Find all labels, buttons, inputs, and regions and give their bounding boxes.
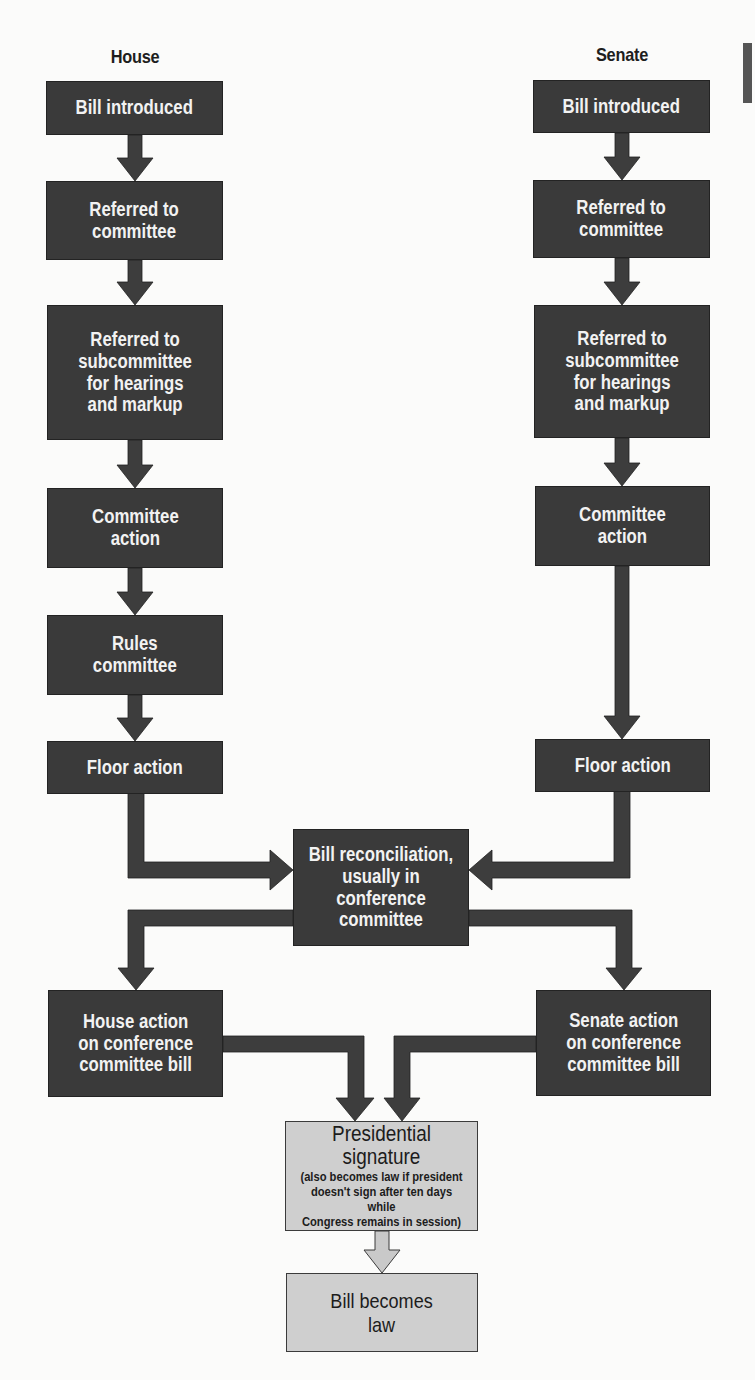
house-column-title: House [92, 46, 178, 68]
arrow-senate-2 [604, 258, 640, 305]
step-label: Referred to committee [577, 197, 666, 241]
house-step-floor-action: Floor action [47, 741, 223, 794]
house-step-committee-action: Committee action [47, 488, 223, 568]
presidential-note: (also becomes law if president doesn't s… [299, 1170, 463, 1230]
arrow-house-5 [117, 695, 153, 741]
senate-step-subcommittee: Referred to subcommittee for hearings an… [534, 305, 710, 438]
arrow-house-4 [117, 568, 153, 615]
arrow-reconciliation-to-senate-action [469, 910, 642, 990]
arrow-senate-to-reconciliation [469, 791, 630, 890]
arrow-senate-action-to-presidential [384, 1036, 536, 1121]
arrow-reconciliation-to-house-action [118, 910, 293, 990]
step-label: Bill introduced [563, 96, 680, 118]
step-senate-final-action: Senate action on conference committee bi… [536, 990, 711, 1096]
house-step-rules-committee: Rules committee [47, 615, 223, 695]
result-label: Bill becomes law [331, 1289, 433, 1335]
step-label: Rules committee [93, 633, 177, 677]
step-label: Referred to committee [90, 199, 179, 243]
step-label: Referred to subcommittee for hearings an… [565, 328, 679, 415]
arrow-house-to-reconciliation [128, 791, 293, 890]
step-label: House action on conference committee bil… [78, 1011, 193, 1076]
arrow-house-2 [117, 260, 153, 305]
step-label: Bill reconciliation, usually in conferen… [309, 844, 453, 931]
arrow-house-action-to-presidential [223, 1036, 374, 1121]
step-label: Floor action [575, 755, 671, 777]
step-label: Committee action [579, 504, 666, 548]
step-label: Referred to subcommittee for hearings an… [78, 329, 192, 416]
step-presidential-signature: Presidential signature (also becomes law… [285, 1121, 478, 1231]
arrow-house-1 [117, 135, 153, 181]
senate-step-bill-introduced: Bill introduced [533, 80, 710, 133]
senate-column-title: Senate [579, 44, 665, 66]
senate-step-floor-action: Floor action [535, 739, 710, 792]
step-label: Committee action [92, 506, 179, 550]
step-label: Senate action on conference committee bi… [566, 1010, 681, 1075]
step-reconciliation: Bill reconciliation, usually in conferen… [293, 829, 469, 946]
arrow-senate-4 [604, 566, 640, 739]
presidential-title: Presidential signature [332, 1122, 431, 1168]
step-house-final-action: House action on conference committee bil… [48, 990, 223, 1097]
house-step-referred-to-committee: Referred to committee [46, 181, 223, 260]
step-label: Bill introduced [76, 97, 193, 119]
arrow-house-3 [117, 440, 153, 488]
senate-step-committee-action: Committee action [535, 486, 710, 566]
step-label: Floor action [87, 757, 183, 779]
house-step-bill-introduced: Bill introduced [46, 81, 223, 135]
step-bill-becomes-law: Bill becomes law [286, 1273, 478, 1352]
senate-step-referred-to-committee: Referred to committee [533, 180, 710, 258]
house-step-subcommittee: Referred to subcommittee for hearings an… [47, 305, 223, 440]
arrow-presidential-to-law [364, 1231, 400, 1273]
arrow-senate-1 [604, 133, 640, 180]
arrow-senate-3 [604, 438, 640, 486]
page-edge-marker [743, 43, 752, 103]
